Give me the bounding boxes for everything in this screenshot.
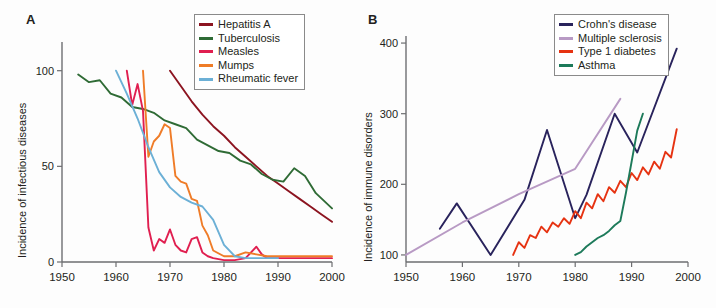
- x-tick-label: 1980: [211, 271, 237, 283]
- x-tick-label: 2000: [319, 271, 345, 283]
- y-tick-label: 50: [42, 160, 54, 172]
- legend-item[interactable]: Tuberculosis: [199, 32, 298, 46]
- legend-swatch-hepatitis-a: [199, 23, 213, 26]
- series-line-multiple-sclerosis: [406, 99, 620, 255]
- series-line-measles: [127, 71, 332, 260]
- x-tick-label: 1950: [393, 271, 419, 283]
- legend-swatch-measles: [199, 50, 213, 53]
- series-line-tuberculosis: [78, 75, 332, 209]
- legend-label-multiple-sclerosis: Multiple sclerosis: [578, 32, 662, 46]
- legend-item[interactable]: Asthma: [559, 59, 662, 73]
- y-tick-label: 200: [380, 178, 398, 190]
- y-tick-label: 100: [36, 65, 54, 77]
- legend-label-crohns-disease: Crohn's disease: [578, 18, 657, 32]
- legend-label-mumps: Mumps: [218, 59, 254, 73]
- legend-swatch-asthma: [559, 64, 573, 67]
- legend-swatch-crohns-disease: [559, 23, 573, 26]
- legend-label-tuberculosis: Tuberculosis: [218, 32, 280, 46]
- y-tick-label: 0: [48, 256, 54, 268]
- legend-label-asthma: Asthma: [578, 59, 615, 73]
- panel-b-legend: Crohn's disease Multiple sclerosis Type …: [554, 14, 669, 76]
- legend-item[interactable]: Mumps: [199, 59, 298, 73]
- legend-swatch-rheumatic-fever: [199, 78, 213, 81]
- series-line-asthma: [575, 114, 643, 255]
- legend-swatch-multiple-sclerosis: [559, 37, 573, 40]
- legend-item[interactable]: Crohn's disease: [559, 18, 662, 32]
- x-tick-label: 1970: [157, 271, 183, 283]
- x-tick-label: 2000: [675, 271, 701, 283]
- x-tick-label: 1980: [562, 271, 588, 283]
- series-line-mumps: [143, 71, 332, 257]
- legend-swatch-tuberculosis: [199, 37, 213, 40]
- legend-label-rheumatic-fever: Rheumatic fever: [218, 72, 298, 86]
- figure-container: A Incidence of infectious diseases 05010…: [0, 0, 716, 308]
- series-line-type-1-diabetes: [513, 129, 677, 255]
- y-tick-label: 400: [380, 37, 398, 49]
- legend-item[interactable]: Type 1 diabetes: [559, 45, 662, 59]
- x-tick-label: 1960: [450, 271, 476, 283]
- legend-label-type-1-diabetes: Type 1 diabetes: [578, 45, 656, 59]
- x-tick-label: 1960: [103, 271, 129, 283]
- legend-label-measles: Measles: [218, 45, 259, 59]
- legend-label-hepatitis-a: Hepatitis A: [218, 18, 271, 32]
- legend-item[interactable]: Measles: [199, 45, 298, 59]
- y-tick-label: 300: [380, 108, 398, 120]
- series-line-crohn-s-disease: [440, 49, 677, 255]
- x-tick-label: 1970: [506, 271, 532, 283]
- legend-item[interactable]: Hepatitis A: [199, 18, 298, 32]
- panel-b: B Incidence of immune disorders 10020030…: [358, 0, 716, 308]
- x-tick-label: 1950: [49, 271, 75, 283]
- panel-a: A Incidence of infectious diseases 05010…: [0, 0, 358, 308]
- panel-a-legend: Hepatitis A Tuberculosis Measles Mumps R…: [194, 14, 305, 90]
- x-tick-label: 1990: [265, 271, 291, 283]
- y-tick-label: 100: [380, 249, 398, 261]
- legend-swatch-type-1-diabetes: [559, 50, 573, 53]
- legend-item[interactable]: Rheumatic fever: [199, 72, 298, 86]
- x-tick-label: 1990: [619, 271, 645, 283]
- legend-swatch-mumps: [199, 64, 213, 67]
- legend-item[interactable]: Multiple sclerosis: [559, 32, 662, 46]
